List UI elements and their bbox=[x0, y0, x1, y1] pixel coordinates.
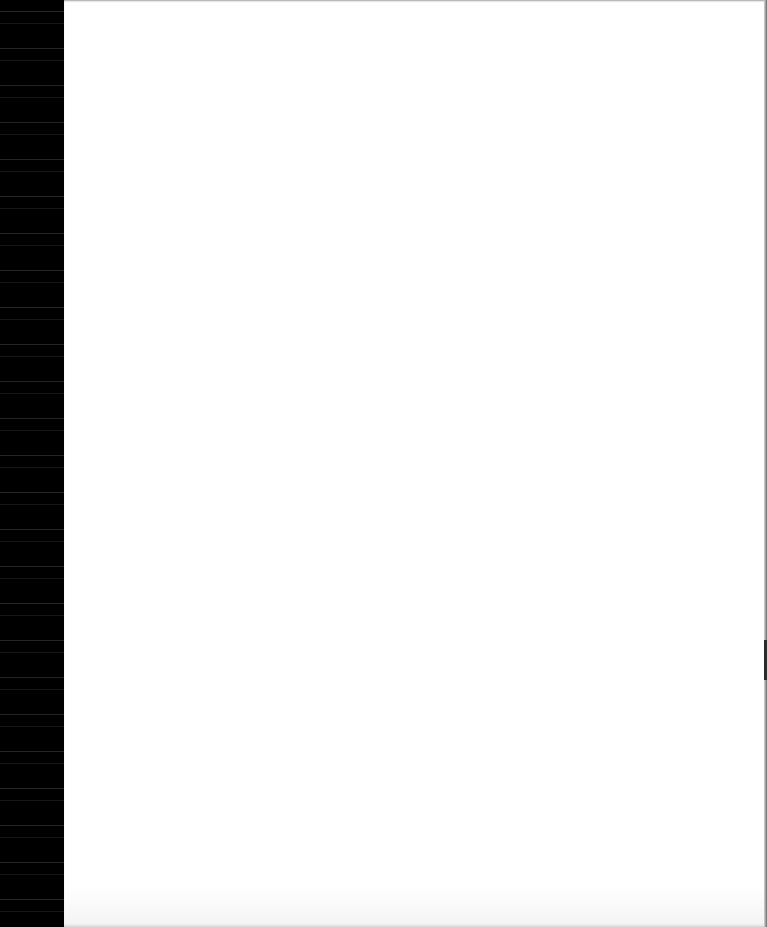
scanned-document bbox=[0, 0, 767, 927]
scan-left-edge bbox=[0, 0, 64, 927]
blank-page bbox=[64, 0, 767, 927]
